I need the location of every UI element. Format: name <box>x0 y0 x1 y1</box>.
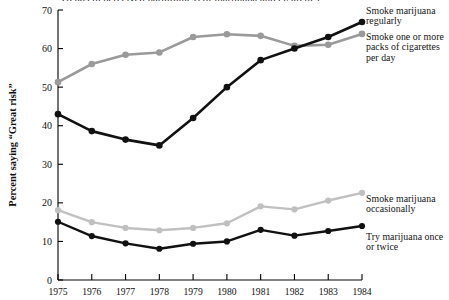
series-line-2 <box>58 193 362 230</box>
series-point <box>190 115 197 122</box>
series-line-0 <box>58 22 362 145</box>
y-axis-tick-label: 50 <box>42 82 52 93</box>
series-point <box>224 238 230 244</box>
y-axis-tick-label: 40 <box>42 120 52 131</box>
legend-item-smoke-cigarettes: Smoke one or more packs of cigarettes pe… <box>366 32 449 63</box>
series-point <box>359 223 365 229</box>
x-axis-tick-label: 1981 <box>251 286 270 297</box>
series-point <box>89 219 95 225</box>
y-axis-tick-label: 30 <box>42 159 52 170</box>
series-point <box>325 228 331 234</box>
y-axis-tick-label: 60 <box>42 43 52 54</box>
y-axis-tick-label: 10 <box>42 236 52 247</box>
series-point <box>89 233 95 239</box>
series-point <box>55 207 61 213</box>
series-point <box>122 240 128 246</box>
series-point <box>325 34 332 41</box>
y-axis-tick-label: 20 <box>42 197 52 208</box>
y-axis-label: Percent saying “Great risk” <box>7 83 18 206</box>
series-point <box>325 41 332 48</box>
series-point <box>291 45 298 52</box>
y-axis-tick-label: 0 <box>47 275 52 286</box>
series-point <box>55 111 62 118</box>
series-point <box>257 57 264 64</box>
x-axis-tick-label: 1977 <box>116 286 135 297</box>
axes-group: 0102030405060701975197619771978197919801… <box>7 5 372 297</box>
series-point <box>156 246 162 252</box>
series-point <box>122 51 129 58</box>
series-point <box>156 142 163 149</box>
legend-label-line: regularly <box>366 16 449 26</box>
series-point <box>359 190 365 196</box>
series-point <box>190 225 196 231</box>
x-axis-tick-label: 1984 <box>352 286 371 297</box>
series-point <box>291 206 297 212</box>
x-axis-tick-label: 1982 <box>285 286 304 297</box>
series-point <box>55 79 62 86</box>
series-point <box>258 227 264 233</box>
series-point <box>325 197 331 203</box>
series-point <box>224 31 231 38</box>
series-point <box>156 49 163 56</box>
x-axis-tick-label: 1983 <box>319 286 338 297</box>
series-point <box>190 34 197 41</box>
legend-label-line: or twice <box>366 242 449 252</box>
legend-item-smoke-marijuana-occasionally: Smoke marijuana occasionally <box>366 194 449 215</box>
legend-item-try-marijuana-once-or-twice: Try marijuana once or twice <box>366 232 449 253</box>
legend-label-line: occasionally <box>366 204 449 214</box>
series-point <box>88 61 95 68</box>
legend-label-line: per day <box>366 53 449 63</box>
series-point <box>258 203 264 209</box>
x-axis-tick-label: 1980 <box>217 286 236 297</box>
series-point <box>291 233 297 239</box>
series-group <box>55 19 366 252</box>
series-point <box>156 227 162 233</box>
series-point <box>359 31 366 38</box>
series-point <box>122 136 129 143</box>
series-point <box>88 128 95 135</box>
y-axis-tick-label: 70 <box>42 5 52 16</box>
series-point <box>224 220 230 226</box>
series-point <box>224 84 231 91</box>
series-point <box>190 241 196 247</box>
x-axis-tick-label: 1979 <box>184 286 203 297</box>
series-point <box>257 33 264 40</box>
x-axis-tick-label: 1978 <box>150 286 169 297</box>
x-axis-tick-label: 1976 <box>82 286 101 297</box>
series-point <box>122 225 128 231</box>
x-axis-tick-label: 1975 <box>48 286 67 297</box>
series-point <box>359 19 366 26</box>
legend-item-smoke-marijuana-regularly: Smoke marijuana regularly <box>366 6 449 27</box>
series-point <box>55 219 61 225</box>
